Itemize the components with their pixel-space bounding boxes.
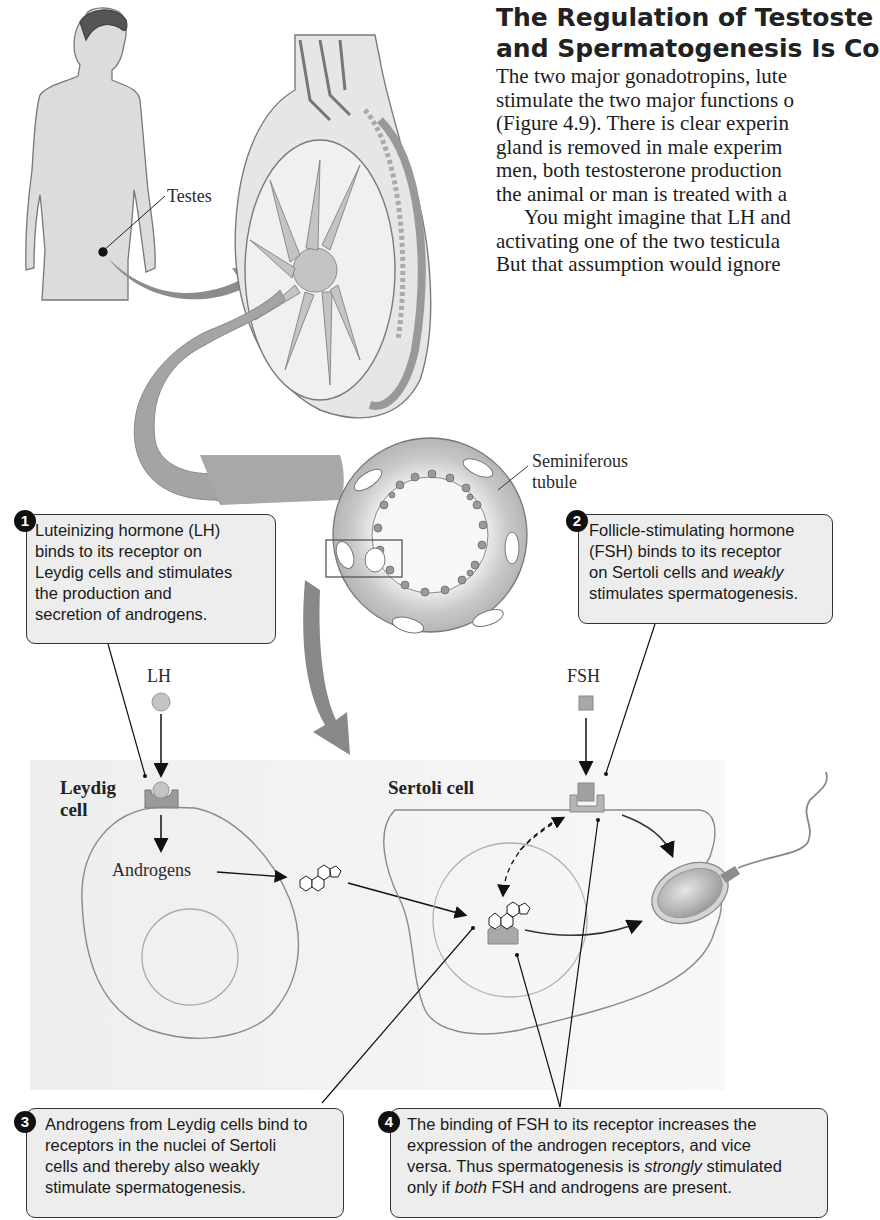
callout-line: The binding of FSH to its receptor incre… (407, 1114, 819, 1135)
step-2-badge: 2 (566, 510, 588, 532)
callout-line: binds to its receptor on (35, 541, 267, 562)
body-paragraphs: The two major gonadotropins, lute stimul… (496, 65, 794, 277)
callout-line: receptors in the nuclei of Sertoli (45, 1135, 335, 1156)
callout-text: on Sertoli cells and (589, 563, 728, 581)
leydig-label-line-1: Leydig (60, 777, 116, 799)
callout-line: cells and thereby also weakly (45, 1156, 335, 1177)
lh-hormone-icon (152, 693, 170, 711)
fsh-hormone-icon (579, 696, 593, 710)
callout-line: on Sertoli cells and weakly (589, 562, 824, 583)
callout-line: Luteinizing hormone (LH) (35, 520, 267, 541)
tubule-body (200, 455, 344, 505)
body-line: activating one of the two testicula (496, 230, 794, 254)
callout-line: secretion of androgens. (35, 604, 267, 625)
fsh-label: FSH (567, 666, 600, 687)
callout-3-androgens: Androgens from Leydig cells bind to rece… (26, 1108, 344, 1218)
emphasis-strongly: strongly (644, 1157, 702, 1175)
seminiferous-label-line-2: tubule (532, 472, 628, 493)
heading-line-1: The Regulation of Testoste (496, 2, 880, 33)
step-1-badge: 1 (14, 510, 36, 532)
callout-line: (FSH) binds to its receptor (589, 541, 824, 562)
callout-line: Androgens from Leydig cells bind to (45, 1114, 335, 1135)
callout-line: Leydig cells and stimulates (35, 562, 267, 583)
body-line: (Figure 4.9). There is clear experin (496, 112, 794, 136)
section-heading: The Regulation of Testoste and Spermatog… (496, 2, 880, 64)
callout-4-synergy: The binding of FSH to its receptor incre… (390, 1108, 828, 1218)
zoom-arrow-2 (303, 580, 350, 755)
body-line: men, both testosterone production (496, 159, 794, 183)
emphasis-weakly: weakly (733, 563, 783, 581)
callout-line: expression of the androgen receptors, an… (407, 1135, 819, 1156)
male-body-icon (26, 8, 155, 300)
callout-line: versa. Thus spermatogenesis is strongly … (407, 1156, 819, 1177)
emphasis-both: both (455, 1178, 487, 1196)
callout-text: versa. Thus spermatogenesis is (407, 1157, 640, 1175)
heading-line-2: and Spermatogenesis Is Co (496, 33, 880, 64)
androgens-label: Androgens (112, 860, 191, 881)
leydig-cell-label: Leydig cell (60, 777, 116, 821)
seminiferous-label-line-1: Seminiferous (532, 451, 628, 472)
callout-text: FSH and androgens are present. (491, 1178, 731, 1196)
step-3-badge: 3 (14, 1111, 36, 1133)
callout-text: stimulated (707, 1157, 782, 1175)
callout-line: stimulate spermatogenesis. (45, 1177, 335, 1198)
callout-text: only if (407, 1178, 450, 1196)
body-line: You might imagine that LH and (496, 206, 794, 230)
body-line: The two major gonadotropins, lute (496, 65, 794, 89)
seminiferous-tubule-label: Seminiferous tubule (532, 451, 628, 493)
body-line: stimulate the two major functions o (496, 89, 794, 113)
testes-label: Testes (167, 186, 212, 207)
callout-1-lh: Luteinizing hormone (LH) binds to its re… (26, 514, 276, 644)
step-4-badge: 4 (378, 1111, 400, 1133)
callout-2-fsh: Follicle-stimulating hormone (FSH) binds… (578, 514, 833, 624)
body-line: the animal or man is treated with a (496, 183, 794, 207)
callout-line: Follicle-stimulating hormone (589, 520, 824, 541)
callout-line: the production and (35, 583, 267, 604)
body-line: But that assumption would ignore (496, 253, 794, 277)
leydig-label-line-2: cell (60, 799, 116, 821)
testis-cross-section (235, 35, 430, 418)
callout-line: only if both FSH and androgens are prese… (407, 1177, 819, 1198)
callout-line: stimulates spermatogenesis. (589, 583, 824, 604)
sertoli-cell-label: Sertoli cell (388, 777, 474, 799)
body-line: gland is removed in male experim (496, 136, 794, 160)
tubule-cross-section (326, 438, 527, 636)
lh-label: LH (147, 666, 171, 687)
